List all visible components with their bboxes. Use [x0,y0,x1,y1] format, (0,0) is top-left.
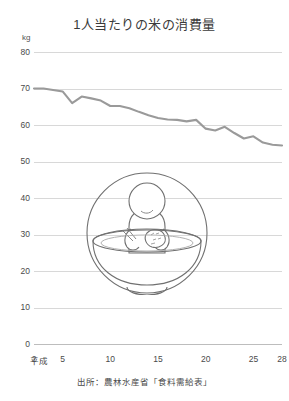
y-tick-label: 70 [8,83,30,93]
gridline [34,162,282,163]
page-title: 1人当たりの米の消費量 [0,14,289,33]
gridline [34,125,282,126]
y-tick-label: 0 [8,339,30,349]
y-tick-label: 60 [8,120,30,130]
series-line-rice-consumption [34,89,282,146]
y-tick-label: 50 [8,156,30,166]
rice-consumption-chart: 1人当たりの米の消費量 kg 01020304050607080 2510152… [0,0,289,401]
rice-bowl-icon [93,229,201,285]
gridline [34,89,282,90]
x-tick-label: 20 [201,354,210,364]
y-tick-label: 80 [8,47,30,57]
x-axis-era-label: 平成 [30,354,48,366]
x-axis-line [34,344,282,345]
x-tick-label: 5 [60,354,65,364]
gridline [34,52,282,53]
y-tick-label: 30 [8,229,30,239]
y-tick-label: 40 [8,193,30,203]
gridline [34,308,282,309]
y-axis-unit-label: kg [22,33,30,42]
x-tick-label: 15 [153,354,162,364]
y-tick-label: 10 [8,302,30,312]
x-tick-label: 28 [277,354,286,364]
x-tick-label: 25 [249,354,258,364]
x-tick-label: 10 [106,354,115,364]
source-note: 出所：農林水産省「食料需給表」 [0,375,289,387]
y-tick-label: 20 [8,266,30,276]
person-in-rice-bowl-illustration [85,171,209,295]
